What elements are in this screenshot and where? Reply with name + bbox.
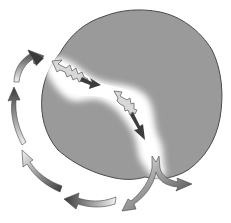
return-arrow-bottom-right — [64, 193, 116, 209]
diagram-canvas — [0, 0, 231, 223]
return-arrow-bottom-left — [22, 150, 62, 192]
return-arrow-left-upper — [14, 50, 44, 82]
return-arrow-left-lower — [8, 87, 26, 145]
sphere-cycle-diagram — [0, 0, 231, 223]
